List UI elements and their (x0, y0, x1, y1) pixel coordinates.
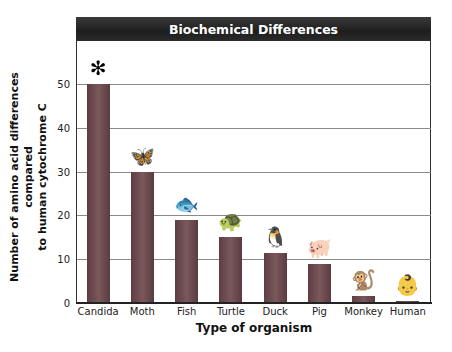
duck-icon: 🐧 (255, 227, 295, 247)
x-axis-label: Type of organism (77, 321, 431, 335)
human-icon: 👶 (388, 275, 428, 295)
x-axis-line (76, 302, 432, 304)
monkey-icon: 🐒 (344, 270, 384, 290)
moth-icon: 🦋 (122, 146, 162, 166)
bar-fish (175, 220, 198, 303)
bar-pig (308, 264, 331, 303)
bar-duck (264, 253, 287, 303)
chart-title: Biochemical Differences (76, 17, 431, 41)
bar-candida (87, 84, 110, 303)
y-axis-label: Number of amino acid differences compare… (8, 47, 42, 307)
y-axis-label-line-1: Number of amino acid differences compare… (8, 47, 36, 307)
gridline (77, 128, 431, 129)
pig-icon: 🐖 (299, 238, 339, 258)
gridline (77, 84, 431, 85)
bar-moth (131, 172, 154, 303)
x-tick-label: Human (378, 306, 438, 317)
y-axis-label-line-2: to human cytochrome C (36, 47, 50, 307)
turtle-icon: 🐢 (211, 211, 251, 231)
bar-turtle (219, 237, 242, 303)
candida-icon: ✻ (78, 58, 118, 78)
fish-icon: 🐟 (167, 194, 207, 214)
